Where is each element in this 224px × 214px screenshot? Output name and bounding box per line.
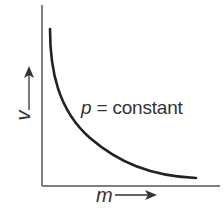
- y-axis-label: v: [12, 111, 35, 121]
- annotation-rest: = constant: [96, 97, 182, 118]
- x-axis-label: m: [96, 184, 113, 207]
- curve-annotation: p = constant: [81, 97, 183, 119]
- annotation-var: p: [81, 97, 91, 118]
